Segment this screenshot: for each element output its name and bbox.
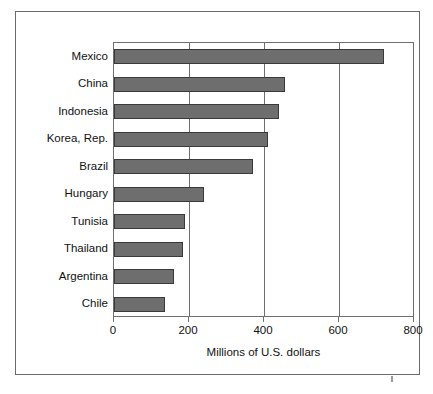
category-label-hungary: Hungary <box>16 187 108 199</box>
bar-tunisia <box>114 214 185 229</box>
bar-indonesia <box>114 104 279 119</box>
x-tick <box>338 317 339 322</box>
category-label-brazil: Brazil <box>16 160 108 172</box>
bar-argentina <box>114 269 174 284</box>
x-tick <box>263 317 264 322</box>
category-label-indonesia: Indonesia <box>16 105 108 117</box>
bar-china <box>114 77 285 92</box>
category-label-korea-rep: Korea, Rep. <box>16 132 108 144</box>
x-tick <box>188 317 189 322</box>
x-tick-label-200: 200 <box>178 324 197 337</box>
x-tick <box>413 317 414 322</box>
bar-hungary <box>114 187 204 202</box>
plot-area <box>113 42 414 317</box>
x-tick <box>113 317 114 322</box>
x-tick-label-800: 800 <box>403 324 422 337</box>
page-mark <box>391 376 393 382</box>
bar-mexico <box>114 49 384 64</box>
category-axis-labels: MexicoChinaIndonesiaKorea, Rep.BrazilHun… <box>16 42 108 317</box>
category-label-thailand: Thailand <box>16 242 108 254</box>
bar-thailand <box>114 242 183 257</box>
gridline <box>339 43 340 316</box>
x-tick-label-400: 400 <box>253 324 272 337</box>
x-tick-label-600: 600 <box>328 324 347 337</box>
category-label-chile: Chile <box>16 297 108 309</box>
x-axis-tick-labels: 0200400600800 <box>113 324 414 340</box>
category-label-tunisia: Tunisia <box>16 215 108 227</box>
bar-korea-rep <box>114 132 268 147</box>
figure-frame: MexicoChinaIndonesiaKorea, Rep.BrazilHun… <box>15 11 420 375</box>
x-tick-label-0: 0 <box>110 324 116 337</box>
category-label-china: China <box>16 77 108 89</box>
category-label-argentina: Argentina <box>16 270 108 282</box>
figure-container: MexicoChinaIndonesiaKorea, Rep.BrazilHun… <box>0 0 433 394</box>
bar-brazil <box>114 159 253 174</box>
x-axis-title: Millions of U.S. dollars <box>113 346 414 358</box>
x-axis-ticks <box>113 317 414 323</box>
category-label-mexico: Mexico <box>16 50 108 62</box>
bar-chile <box>114 297 165 312</box>
